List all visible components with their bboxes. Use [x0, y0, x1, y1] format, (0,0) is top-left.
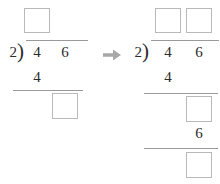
worksheet-canvas: 2 ) 4 6 4 → 2 ) 4: [0, 0, 220, 184]
right-brought-down-digit: 6: [190, 126, 208, 141]
right-dividend-digit-1: 4: [159, 45, 177, 60]
left-subtraction-rule: [13, 90, 83, 91]
right-quotient-ones-box[interactable]: [186, 8, 212, 33]
right-division-vinculum: [151, 40, 219, 41]
right-final-remainder-box[interactable]: [186, 152, 212, 178]
right-subtraction-rule-2: [144, 148, 218, 149]
left-dividend-digit-2: 6: [56, 45, 74, 60]
left-division-bracket-icon: ): [17, 41, 26, 62]
left-divisor: 2: [4, 45, 17, 60]
left-division-step: 2 ) 4 6 4: [0, 0, 100, 184]
right-divisor: 2: [129, 45, 142, 60]
step-arrow-icon: [101, 44, 123, 66]
left-dividend-digit-1: 4: [28, 45, 46, 60]
right-division-bracket-icon: ): [142, 41, 151, 62]
left-subtrahend: 4: [28, 70, 46, 85]
right-quotient-tens-box[interactable]: [155, 8, 181, 33]
right-subtrahend: 4: [159, 70, 177, 85]
left-division-vinculum: [26, 40, 88, 41]
right-dividend-digit-2: 6: [190, 45, 208, 60]
left-quotient-tens-box[interactable]: [24, 8, 50, 33]
right-partial-remainder-box[interactable]: [186, 96, 212, 122]
left-remainder-box[interactable]: [52, 93, 78, 119]
right-division-step: 2 ) 4 6 4 6: [125, 0, 220, 184]
right-subtraction-rule-1: [144, 93, 218, 94]
